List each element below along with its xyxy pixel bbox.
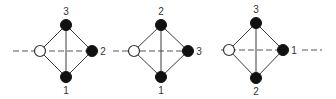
node-label-right: 3: [196, 46, 202, 57]
open-node: [224, 45, 235, 56]
diagram-3: 312: [221, 4, 322, 97]
filled-node-right: [87, 46, 98, 57]
node-label-right: 1: [291, 45, 297, 56]
filled-node-top: [156, 20, 167, 31]
filled-node-right: [278, 45, 289, 56]
open-node: [35, 46, 46, 57]
node-label-bottom: 1: [63, 85, 69, 96]
diagram-canvas: 321231312: [0, 0, 336, 99]
node-label-bottom: 1: [158, 85, 164, 96]
tetrahedral-diagrams: 321231312: [0, 0, 336, 99]
node-label-bottom: 2: [253, 86, 259, 97]
diagram-2: 231: [113, 6, 202, 96]
node-label-right: 2: [100, 46, 106, 57]
filled-node-bottom: [156, 72, 167, 83]
diagram-1: 321: [13, 6, 106, 96]
filled-node-bottom: [251, 73, 262, 84]
node-label-top: 2: [158, 6, 164, 17]
node-label-top: 3: [63, 6, 69, 17]
filled-node-top: [251, 18, 262, 29]
filled-node-right: [183, 46, 194, 57]
node-label-top: 3: [253, 4, 259, 15]
filled-node-top: [61, 20, 72, 31]
filled-node-bottom: [61, 72, 72, 83]
open-node: [129, 46, 140, 57]
